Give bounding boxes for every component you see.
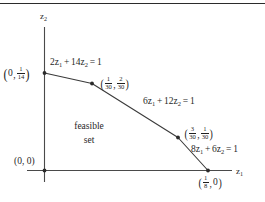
vertex-x-intercept-y: 0 xyxy=(213,178,218,188)
fraction-denominator: 30 xyxy=(189,134,197,141)
vertex-label-y-intercept: ( 0 , 1 14 ) xyxy=(3,66,30,81)
fraction-numerator: 2 xyxy=(119,76,123,83)
y-axis-label: z2 xyxy=(40,12,47,22)
feasible-set-figure: z2 z1 2z1+14z2=1 6z1+12z2=1 8z1+6z2=1 ( … xyxy=(0,0,265,202)
constraint-1-coef2: 14 xyxy=(71,57,81,67)
constraint-2-rhs: 1 xyxy=(190,96,195,106)
vertex-marker-y-intercept xyxy=(43,71,47,75)
coord-pair-y-intercept: ( 0 , 1 14 ) xyxy=(3,66,30,81)
fraction-denominator: 14 xyxy=(17,74,25,81)
x-axis-label: z1 xyxy=(236,167,243,177)
constraint-2-op: + xyxy=(157,96,162,106)
vertex-upper-x-fraction: 1 30 xyxy=(105,76,113,91)
vertex-upper-y-fraction: 2 30 xyxy=(117,76,125,91)
x-axis-label-sub: 1 xyxy=(240,171,243,177)
feasible-set-label-line2: set xyxy=(62,134,116,148)
fraction-numerator: 1 xyxy=(204,175,208,182)
constraint-label-3: 8z1+6z2=1 xyxy=(191,145,238,155)
constraint-label-2: 6z1+12z2=1 xyxy=(143,97,195,107)
vertex-marker-lower xyxy=(176,136,180,140)
coord-comma: , xyxy=(13,71,15,82)
constraint-1-rhs: 1 xyxy=(97,57,102,67)
vertex-lower-y-fraction: 1 30 xyxy=(201,126,209,141)
vertex-marker-x-intercept xyxy=(206,169,210,173)
constraint-1-op: + xyxy=(64,57,69,67)
vertex-marker-upper xyxy=(90,82,94,86)
vertex-label-upper: ( 1 30 , 2 30 ) xyxy=(100,76,129,91)
constraint-3-op: + xyxy=(205,144,210,154)
coord-pair-x-intercept: ( 1 8 , 0 ) xyxy=(198,175,222,190)
feasible-set-label-line1: feasible xyxy=(62,120,116,134)
constraint-3-sub1: 1 xyxy=(200,148,203,155)
vertex-label-lower: ( 3 30 , 1 30 ) xyxy=(184,126,213,141)
vertex-lower-x-fraction: 3 30 xyxy=(189,126,197,141)
plot-canvas xyxy=(0,0,265,202)
constraint-2-eq: = xyxy=(183,96,188,106)
fraction-numerator: 1 xyxy=(203,126,207,133)
vertex-marker-origin xyxy=(43,169,47,173)
coord-comma: , xyxy=(210,180,212,191)
constraint-2-sub2: 2 xyxy=(178,100,181,107)
constraint-1-sub1: 1 xyxy=(59,61,62,68)
constraint-3-eq: = xyxy=(226,144,231,154)
constraint-3-rhs: 1 xyxy=(233,144,238,154)
vertex-y-intercept-y-fraction: 1 14 xyxy=(17,66,25,81)
vertex-label-x-intercept: ( 1 8 , 0 ) xyxy=(198,175,222,190)
constraint-1-var2: z xyxy=(80,57,84,67)
fraction-denominator: 30 xyxy=(117,84,125,91)
vertex-x-intercept-x-fraction: 1 8 xyxy=(203,175,209,190)
fraction-denominator: 30 xyxy=(201,134,209,141)
coord-pair-upper: ( 1 30 , 2 30 ) xyxy=(100,76,129,91)
constraint-2-coef2: 12 xyxy=(164,96,174,106)
coord-pair-lower: ( 3 30 , 1 30 ) xyxy=(184,126,213,141)
coord-comma: , xyxy=(113,81,115,92)
feasible-set-label: feasible set xyxy=(62,120,116,148)
constraint-2-sub1: 1 xyxy=(152,100,155,107)
coord-comma: , xyxy=(197,131,199,142)
constraint-1-sub2: 2 xyxy=(85,61,88,68)
constraint-label-1: 2z1+14z2=1 xyxy=(50,58,102,68)
constraint-2-var2: z xyxy=(173,96,177,106)
constraint-3-sub2: 2 xyxy=(221,148,224,155)
y-axis-label-sub: 2 xyxy=(44,16,47,22)
fraction-denominator: 8 xyxy=(204,183,208,190)
origin-label: (0, 0) xyxy=(14,157,35,167)
fraction-numerator: 3 xyxy=(190,126,194,133)
vertex-y-intercept-x: 0 xyxy=(8,69,13,79)
fraction-denominator: 30 xyxy=(105,84,113,91)
fraction-numerator: 1 xyxy=(106,76,110,83)
fraction-numerator: 1 xyxy=(19,66,23,73)
constraint-1-eq: = xyxy=(90,57,95,67)
